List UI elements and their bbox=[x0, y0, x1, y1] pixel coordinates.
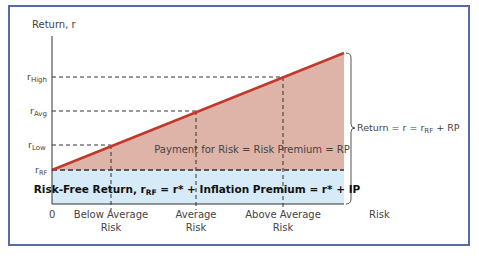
y-axis-label: Return, r bbox=[32, 19, 77, 30]
risk-return-diagram: Return, r rHigh rAvg rLow rRF 0 Below Av… bbox=[0, 0, 479, 258]
r-high-label: rHigh bbox=[27, 71, 47, 84]
risk-premium-label: Payment for Risk = Risk Premium = RP bbox=[154, 144, 349, 155]
above-average-label-2: Risk bbox=[273, 222, 294, 233]
x-origin-label: 0 bbox=[49, 209, 55, 220]
below-average-label-1: Below Average bbox=[74, 209, 148, 220]
r-rf-label: rRF bbox=[35, 164, 47, 177]
average-label-1: Average bbox=[175, 209, 216, 220]
below-average-label-2: Risk bbox=[101, 222, 122, 233]
r-low-label: rLow bbox=[28, 139, 46, 152]
total-return-label: Return = r = rRF + RP bbox=[357, 122, 460, 135]
above-average-label-1: Above Average bbox=[245, 209, 321, 220]
risk-free-label: Risk-Free Return, rRF = r* + Inflation P… bbox=[34, 183, 361, 197]
total-return-bracket bbox=[346, 53, 355, 204]
average-label-2: Risk bbox=[186, 222, 207, 233]
r-avg-label: rAvg bbox=[30, 105, 47, 118]
x-axis-label: Risk bbox=[369, 209, 390, 220]
